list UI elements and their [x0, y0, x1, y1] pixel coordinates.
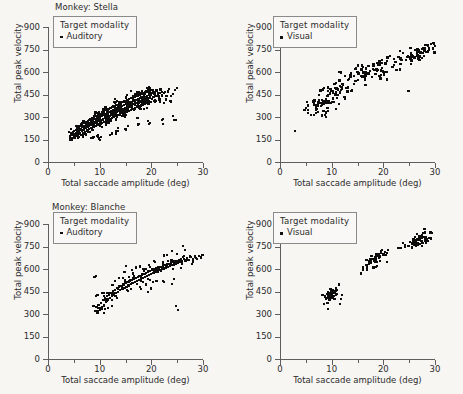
- y-axis-tick-label: 150: [232, 332, 272, 341]
- panel-top-right: Total peak velocity Total saccade amplit…: [232, 0, 463, 197]
- x-axis-minor-tick: [409, 360, 410, 363]
- y-axis-line: [48, 224, 49, 360]
- x-axis-tick-label: 10: [85, 365, 115, 374]
- y-axis-tick: [43, 247, 48, 248]
- y-axis-tick-label: 600: [232, 68, 272, 77]
- square-marker-icon: [280, 232, 283, 235]
- y-axis-tick-label: 750: [232, 242, 272, 251]
- legend-entry-label: Visual: [287, 31, 312, 42]
- y-axis-tick: [275, 247, 280, 248]
- y-axis-tick-label: 900: [232, 220, 272, 229]
- x-axis-tick-label: 30: [188, 168, 218, 177]
- y-axis-tick: [275, 72, 280, 73]
- panel-top-left: Monkey: Stella Total peak velocity Total…: [0, 0, 231, 197]
- x-axis-tick-label: 30: [188, 365, 218, 374]
- legend-box: Target modality Visual: [273, 16, 357, 48]
- legend-title: Target modality: [60, 216, 129, 227]
- y-axis-tick: [43, 140, 48, 141]
- y-axis-tick-label: 600: [0, 68, 40, 77]
- legend-title: Target modality: [60, 20, 129, 31]
- figure-root: Monkey: Stella Total peak velocity Total…: [0, 0, 463, 394]
- legend-entry: Auditory: [60, 31, 129, 42]
- x-axis-tick-label: 30: [420, 365, 450, 374]
- x-axis-minor-tick: [358, 360, 359, 363]
- x-axis-tick-label: 10: [85, 168, 115, 177]
- x-axis-tick-label: 20: [136, 365, 166, 374]
- y-axis-tick-label: 150: [0, 332, 40, 341]
- y-axis-tick-label: 300: [232, 113, 272, 122]
- legend-entry-label: Auditory: [67, 31, 103, 42]
- legend-entry: Visual: [280, 227, 349, 238]
- y-axis-tick: [43, 95, 48, 96]
- x-axis-tick-label: 0: [265, 168, 295, 177]
- y-axis-line: [48, 27, 49, 163]
- legend-entry-label: Visual: [287, 227, 312, 238]
- y-axis-tick-label: 900: [0, 220, 40, 229]
- y-axis-tick-label: 750: [232, 45, 272, 54]
- y-axis-tick: [275, 314, 280, 315]
- y-axis-tick: [43, 27, 48, 28]
- y-axis-tick-label: 150: [232, 135, 272, 144]
- x-axis-tick-label: 20: [368, 365, 398, 374]
- y-axis-tick-label: 600: [232, 265, 272, 274]
- y-axis-tick-label: 300: [0, 310, 40, 319]
- y-axis-tick: [43, 72, 48, 73]
- legend-entry: Auditory: [60, 227, 129, 238]
- y-axis-tick-label: 900: [0, 23, 40, 32]
- dot-marker-icon: [60, 232, 63, 235]
- x-axis-tick-label: 20: [136, 168, 166, 177]
- legend-title: Target modality: [280, 20, 349, 31]
- y-axis-tick: [275, 50, 280, 51]
- y-axis-tick: [43, 117, 48, 118]
- x-axis-minor-tick: [358, 163, 359, 166]
- x-axis-minor-tick: [177, 163, 178, 166]
- x-axis-minor-tick: [409, 163, 410, 166]
- y-axis-tick: [43, 292, 48, 293]
- x-axis-tick-label: 10: [317, 168, 347, 177]
- dot-marker-icon: [60, 36, 63, 39]
- x-axis-tick-label: 0: [265, 365, 295, 374]
- x-axis-minor-tick: [177, 360, 178, 363]
- y-axis-tick-label: 0: [232, 158, 272, 167]
- y-axis-tick: [43, 224, 48, 225]
- x-axis-tick-label: 0: [33, 168, 63, 177]
- y-axis-tick: [43, 50, 48, 51]
- y-axis-tick: [275, 140, 280, 141]
- x-axis-minor-tick: [306, 360, 307, 363]
- y-axis-tick: [43, 337, 48, 338]
- y-axis-tick: [275, 117, 280, 118]
- x-axis-tick-label: 20: [368, 168, 398, 177]
- y-axis-tick: [275, 292, 280, 293]
- y-axis-tick-label: 600: [0, 265, 40, 274]
- y-axis-tick: [43, 314, 48, 315]
- x-axis-minor-tick: [74, 360, 75, 363]
- y-axis-tick-label: 750: [0, 242, 40, 251]
- y-axis-tick: [43, 269, 48, 270]
- x-axis-minor-tick: [126, 360, 127, 363]
- y-axis-tick-label: 450: [232, 287, 272, 296]
- x-axis-minor-tick: [74, 163, 75, 166]
- y-axis-line: [280, 224, 281, 360]
- panel-bottom-left: Monkey: Blanche Total peak velocity Tota…: [0, 197, 231, 394]
- y-axis-tick-label: 300: [232, 310, 272, 319]
- y-axis-tick-label: 900: [232, 23, 272, 32]
- y-axis-tick-label: 450: [232, 90, 272, 99]
- y-axis-tick: [275, 269, 280, 270]
- y-axis-tick-label: 450: [0, 90, 40, 99]
- x-axis-tick-label: 0: [33, 365, 63, 374]
- legend-entry: Visual: [280, 31, 349, 42]
- y-axis-tick-label: 450: [0, 287, 40, 296]
- x-axis-tick-label: 30: [420, 168, 450, 177]
- x-axis-tick-label: 10: [317, 365, 347, 374]
- y-axis-tick: [275, 337, 280, 338]
- x-axis-minor-tick: [126, 163, 127, 166]
- y-axis-tick-label: 150: [0, 135, 40, 144]
- legend-box: Target modality Auditory: [53, 212, 137, 244]
- legend-title: Target modality: [280, 216, 349, 227]
- y-axis-tick-label: 750: [0, 45, 40, 54]
- y-axis-tick-label: 300: [0, 113, 40, 122]
- y-axis-tick-label: 0: [0, 158, 40, 167]
- y-axis-tick-label: 0: [232, 355, 272, 364]
- legend-box: Target modality Visual: [273, 212, 357, 244]
- x-axis-minor-tick: [306, 163, 307, 166]
